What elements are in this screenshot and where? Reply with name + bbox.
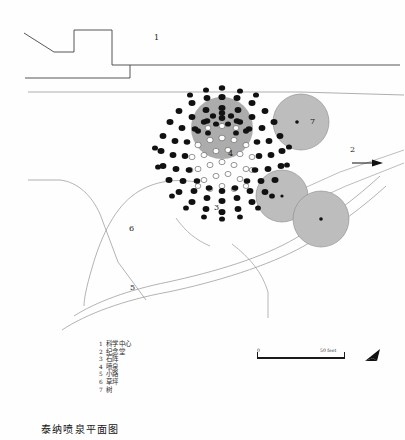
- legend-item-number: 1: [99, 341, 106, 349]
- walkway-edge: [28, 92, 404, 95]
- science-center-outline: [24, 30, 400, 78]
- map-label-1: 1: [154, 34, 159, 42]
- legend-item-number: 5: [99, 371, 106, 379]
- drawing-sheet: 1 2 3 4 5 6 7 1 科学中心 2 纪念堂 3 石阵 4 喷泉 5 小…: [0, 0, 405, 440]
- tree-canopy: [293, 191, 349, 247]
- map-label-2: 2: [350, 146, 355, 154]
- scale-tick-end: [344, 352, 345, 358]
- north-arrow-icon: [364, 348, 382, 364]
- lawn-area-6: [28, 180, 196, 306]
- legend-item-number: 3: [99, 356, 106, 364]
- tree-canopy: [273, 94, 329, 150]
- direction-arrow-2: [352, 160, 383, 167]
- map-label-3: 3: [214, 204, 219, 212]
- scale-end-label: 50 feet: [320, 348, 336, 353]
- map-label-4: 4: [228, 150, 233, 158]
- page-title: 泰纳喷泉平面图: [41, 421, 119, 436]
- legend: 1 科学中心 2 纪念堂 3 石阵 4 喷泉 5 小路 6 草坪 7 树: [99, 341, 169, 394]
- legend-item: 7 树: [99, 387, 169, 395]
- map-label-5: 5: [130, 284, 135, 292]
- legend-item-label: 树: [106, 387, 112, 395]
- legend-item-number: 6: [99, 379, 106, 387]
- scale-bar-line: [257, 357, 345, 359]
- legend-item-number: 4: [99, 364, 106, 372]
- map-label-6: 6: [129, 225, 134, 233]
- map-label-7: 7: [310, 118, 315, 126]
- site-plan-drawing: [0, 0, 405, 440]
- legend-item-number: 7: [99, 387, 106, 395]
- scale-bar: 0 50 feet: [257, 349, 345, 363]
- legend-item-number: 2: [99, 349, 106, 357]
